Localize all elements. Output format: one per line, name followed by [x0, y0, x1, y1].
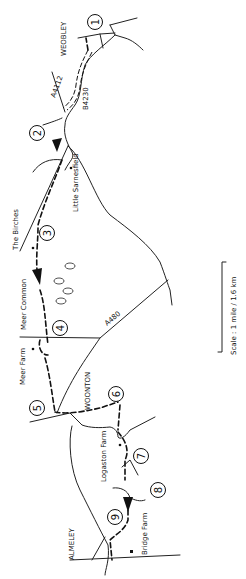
scale-line	[218, 262, 226, 352]
route-4	[40, 290, 48, 345]
route-6-7	[118, 405, 120, 430]
waypoint-4: 4	[53, 321, 68, 336]
route-map: 1 2 3 4 5 6 7 8 9 WEOBLEY The Birches Li…	[0, 0, 246, 579]
svg-text:8: 8	[153, 487, 164, 493]
label-woonton: WOONTON	[84, 372, 92, 410]
route-4-5	[45, 358, 55, 412]
svg-text:2: 2	[32, 130, 43, 136]
label-a480: A480	[103, 310, 122, 328]
label-weobley: WEOBLEY	[60, 21, 68, 56]
tree-icon	[54, 278, 64, 284]
waypoint-2: 2	[30, 126, 45, 141]
label-logaston-farm: Logaston Farm	[100, 430, 108, 482]
route-weobley-start	[86, 38, 88, 50]
label-meer-farm: Meer Farm	[19, 348, 27, 385]
waypoint-3: 3	[40, 226, 55, 241]
label-b4230: B4230	[82, 87, 90, 110]
tree-icon	[63, 288, 73, 294]
tree-icon	[56, 298, 66, 304]
svg-text:6: 6	[111, 391, 122, 397]
label-little-sarnesfield: Little Sarnesfield	[72, 153, 80, 212]
svg-text:7: 7	[136, 453, 147, 459]
direction-arrow-2	[52, 138, 62, 152]
road-birches-curve	[43, 118, 62, 125]
waypoint-5: 5	[30, 401, 45, 416]
road-weobley-loop	[78, 33, 115, 38]
svg-text:3: 3	[42, 230, 53, 236]
woodland	[54, 263, 75, 304]
route-4-loop	[39, 340, 48, 355]
waypoint-9: 9	[108, 510, 123, 525]
bridge-farm-marker	[130, 550, 133, 553]
waypoint-1: 1	[88, 15, 103, 30]
tree-icon	[65, 263, 75, 269]
scale-bar: Scale : 1 mile / 1.6 km	[218, 262, 238, 355]
waypoint-8: 8	[151, 483, 166, 498]
label-meer-common: Meer Common	[20, 279, 28, 330]
label-the-birches: The Birches	[12, 209, 20, 251]
route-3-4	[37, 228, 38, 270]
label-bridge-farm: Bridge Farm	[141, 513, 149, 555]
road-woonton-west	[30, 413, 155, 438]
road-east	[68, 146, 172, 305]
svg-text:5: 5	[32, 405, 43, 411]
birches-marker	[32, 247, 35, 250]
route-7-loop	[118, 432, 127, 480]
meer-farm-marker	[32, 348, 35, 351]
waypoint-6: 6	[109, 387, 124, 402]
svg-text:4: 4	[55, 325, 66, 331]
svg-text:1: 1	[90, 19, 101, 25]
label-a4112: A4112	[49, 75, 64, 99]
walking-route	[37, 38, 128, 560]
route-2-3	[38, 160, 62, 225]
road-weobley-east	[110, 18, 137, 25]
waypoint-7: 7	[134, 449, 149, 464]
direction-arrow-8	[123, 497, 133, 512]
road-a480	[20, 280, 168, 338]
label-almeley: ALMELEY	[68, 528, 76, 560]
road-a480-south	[57, 338, 100, 413]
direction-arrow-3	[32, 268, 42, 285]
road-almeley-branch	[92, 537, 105, 560]
road-almeley-south	[70, 555, 180, 560]
road-weobley-north	[110, 25, 143, 50]
svg-text:9: 9	[110, 514, 121, 520]
scale-label: Scale : 1 mile / 1.6 km	[230, 276, 238, 355]
logaston-farm-marker	[119, 444, 122, 447]
